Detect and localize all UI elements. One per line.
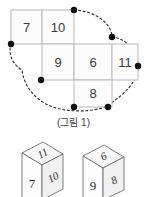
grid-cell-label-7: 7 xyxy=(23,20,30,35)
grid-cell-label-8: 8 xyxy=(89,86,96,101)
figure-caption: (그림 1) xyxy=(0,114,147,129)
loop-vertex-dot xyxy=(8,41,14,47)
loop-vertex-dot xyxy=(71,104,77,110)
grid-cell-label-9: 9 xyxy=(54,55,61,70)
grid-cell-label-10: 10 xyxy=(51,20,65,35)
cube-right: 9 6 8 xyxy=(83,145,124,197)
loop-vertex-dot xyxy=(38,77,44,83)
grid-figure: 7 10 9 6 11 8 xyxy=(0,0,147,115)
cube-left: 7 11 10 xyxy=(22,142,63,197)
loop-vertex-dot xyxy=(135,63,141,69)
grid-cell-label-11: 11 xyxy=(118,55,132,70)
loop-vertex-dot xyxy=(71,7,77,13)
cube-right-front-label: 9 xyxy=(90,178,97,193)
loop-vertex-dot xyxy=(109,34,115,40)
figure-panel: 7 10 9 6 11 8 (그림 1) xyxy=(0,0,147,197)
cube-left-front-label: 7 xyxy=(29,176,36,191)
cube-row: 7 11 10 9 6 8 xyxy=(0,140,147,197)
loop-vertex-dot xyxy=(105,104,111,110)
grid-cell-label-6: 6 xyxy=(89,55,96,70)
